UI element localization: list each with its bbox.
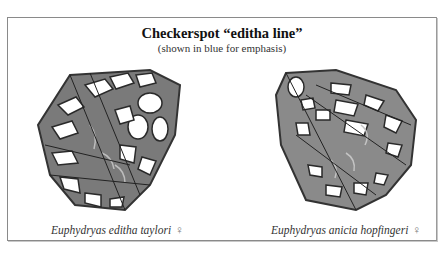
specimen-caption-right: Euphydryas anicia hopfingeri♀ [271, 223, 421, 238]
female-symbol-icon: ♀ [175, 223, 184, 237]
butterfly-wing-left-image [30, 65, 190, 215]
specimen-caption-left: Euphydryas editha taylori♀ [51, 223, 184, 238]
specimen-name: Euphydryas anicia hopfingeri [271, 224, 408, 236]
figure-subtitle: (shown in blue for emphasis) [8, 42, 436, 54]
butterfly-wing-right-image [266, 65, 426, 215]
female-symbol-icon: ♀ [412, 223, 421, 237]
figure-frame: Checkerspot “editha line” (shown in blue… [7, 17, 437, 241]
specimen-name: Euphydryas editha taylori [51, 224, 171, 236]
figure-title: Checkerspot “editha line” [8, 25, 436, 42]
